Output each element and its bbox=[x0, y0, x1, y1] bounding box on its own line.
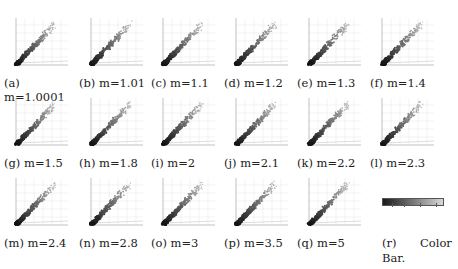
subfigure-caption: (e) m=1.3 bbox=[297, 76, 355, 90]
subfigure-caption: (a) bbox=[4, 76, 20, 90]
caption-label: (d) bbox=[224, 76, 240, 90]
subfigure-caption: (k) m=2.2 bbox=[297, 156, 355, 170]
colorbar-tick bbox=[420, 203, 421, 207]
colorbar-tick bbox=[436, 203, 437, 207]
caption-label: (b) bbox=[79, 76, 95, 90]
scatter-plot bbox=[10, 175, 70, 230]
scatter-plot bbox=[85, 175, 145, 230]
colorbar-caption: Color bbox=[420, 236, 452, 250]
scatter-plot bbox=[157, 175, 217, 230]
scatter-plot bbox=[157, 15, 217, 70]
caption-label: (c) bbox=[151, 76, 166, 90]
subfigure-caption: (c) m=1.1 bbox=[151, 76, 209, 90]
scatter-svg bbox=[230, 175, 290, 230]
subfigure-m: (m) m=2.4 bbox=[0, 175, 72, 255]
scatter-svg bbox=[376, 95, 436, 150]
subfigure-c: (c) m=1.1 bbox=[147, 15, 219, 95]
caption-label: (o) bbox=[151, 236, 167, 250]
caption-param: m=1.5 bbox=[24, 156, 63, 170]
scatter-svg bbox=[157, 175, 217, 230]
scatter-svg bbox=[85, 15, 145, 70]
subfigure-caption: (d) m=1.2 bbox=[224, 76, 283, 90]
caption-label: (k) bbox=[297, 156, 313, 170]
scatter-plot bbox=[85, 15, 145, 70]
caption-label: (n) bbox=[79, 236, 95, 250]
caption-label: (m) bbox=[4, 236, 24, 250]
colorbar-label: (r) bbox=[382, 236, 396, 250]
scatter-plot bbox=[230, 15, 290, 70]
caption-param: m=1.4 bbox=[387, 76, 426, 90]
scatter-plot bbox=[157, 95, 217, 150]
scatter-svg bbox=[10, 15, 70, 70]
subfigure-caption: (n) m=2.8 bbox=[79, 236, 138, 250]
subfigure-b: (b) m=1.01 bbox=[75, 15, 147, 95]
scatter-plot bbox=[85, 95, 145, 150]
caption-label: (f) bbox=[370, 76, 383, 90]
caption-label: (p) bbox=[224, 236, 240, 250]
subfigure-f: (f) m=1.4 bbox=[366, 15, 438, 95]
caption-param: m=3 bbox=[171, 236, 199, 250]
caption-param: m=2.4 bbox=[28, 236, 67, 250]
caption-label: (g) bbox=[4, 156, 20, 170]
scatter-svg bbox=[230, 15, 290, 70]
subfigure-a: m=1.0001(a) bbox=[0, 15, 72, 95]
caption-param: m=1.8 bbox=[99, 156, 138, 170]
caption-param: m=3.5 bbox=[244, 236, 283, 250]
scatter-svg bbox=[157, 95, 217, 150]
scatter-svg bbox=[230, 95, 290, 150]
scatter-plot bbox=[230, 95, 290, 150]
scatter-plot bbox=[10, 15, 70, 70]
caption-label: (l) bbox=[370, 156, 383, 170]
colorbar-caption-line2: Bar. bbox=[382, 251, 405, 265]
subfigure-e: (e) m=1.3 bbox=[293, 15, 365, 95]
scatter-plot bbox=[10, 95, 70, 150]
caption-label: (a) bbox=[4, 76, 20, 90]
scatter-plot bbox=[303, 95, 363, 150]
caption-param: m=2.1 bbox=[240, 156, 279, 170]
scatter-svg bbox=[303, 15, 363, 70]
caption-param: m=2 bbox=[167, 156, 195, 170]
caption-param: m=2.3 bbox=[386, 156, 425, 170]
colorbar-tick bbox=[392, 203, 393, 207]
subfigure-g: (g) m=1.5 bbox=[0, 95, 72, 175]
scatter-plot bbox=[303, 175, 363, 230]
subfigure-i: (i) m=2 bbox=[147, 95, 219, 175]
scatter-svg bbox=[10, 175, 70, 230]
scatter-svg bbox=[10, 95, 70, 150]
caption-param: m=1.2 bbox=[244, 76, 283, 90]
caption-label: (i) bbox=[151, 156, 164, 170]
scatter-svg bbox=[303, 95, 363, 150]
scatter-svg bbox=[85, 95, 145, 150]
subfigure-caption: (b) m=1.01 bbox=[79, 76, 145, 90]
subfigure-caption: (h) m=1.8 bbox=[79, 156, 138, 170]
subfigure-caption: (p) m=3.5 bbox=[224, 236, 283, 250]
subfigure-n: (n) m=2.8 bbox=[75, 175, 147, 255]
scatter-plot bbox=[230, 175, 290, 230]
subfigure-caption: (o) m=3 bbox=[151, 236, 198, 250]
scatter-svg bbox=[85, 175, 145, 230]
subfigure-p: (p) m=3.5 bbox=[220, 175, 292, 255]
subfigure-o: (o) m=3 bbox=[147, 175, 219, 255]
subfigure-caption: (g) m=1.5 bbox=[4, 156, 63, 170]
scatter-svg bbox=[303, 175, 363, 230]
scatter-plot bbox=[376, 15, 436, 70]
caption-label: (e) bbox=[297, 76, 313, 90]
subfigure-l: (l) m=2.3 bbox=[366, 95, 438, 175]
subfigure-caption: (q) m=5 bbox=[297, 236, 345, 250]
caption-param: m=5 bbox=[317, 236, 345, 250]
scatter-svg bbox=[376, 15, 436, 70]
caption-param: m=2.8 bbox=[99, 236, 138, 250]
subfigure-caption: (j) m=2.1 bbox=[224, 156, 279, 170]
scatter-svg bbox=[157, 15, 217, 70]
subfigure-caption: (l) m=2.3 bbox=[370, 156, 425, 170]
subfigure-caption: (f) m=1.4 bbox=[370, 76, 426, 90]
caption-label: (j) bbox=[224, 156, 237, 170]
subfigure-caption: (m) m=2.4 bbox=[4, 236, 66, 250]
subfigure-j: (j) m=2.1 bbox=[220, 95, 292, 175]
caption-label: (h) bbox=[79, 156, 95, 170]
scatter-plot bbox=[376, 95, 436, 150]
caption-param: m=1.1 bbox=[170, 76, 209, 90]
subfigure-q: (q) m=5 bbox=[293, 175, 365, 255]
subfigure-k: (k) m=2.2 bbox=[293, 95, 365, 175]
colorbar-tick bbox=[404, 203, 405, 207]
